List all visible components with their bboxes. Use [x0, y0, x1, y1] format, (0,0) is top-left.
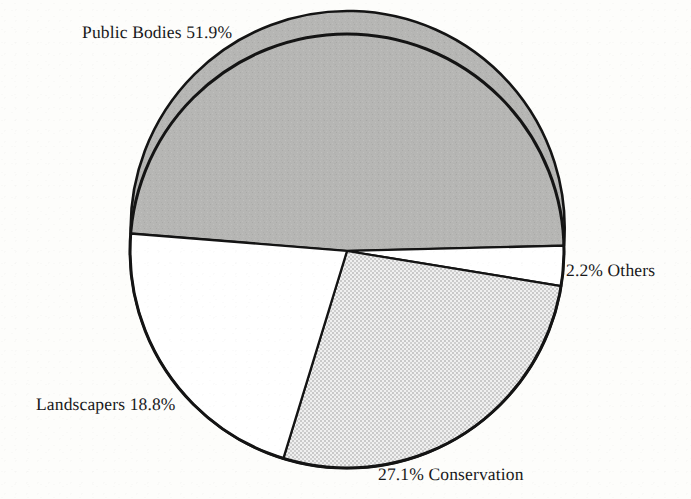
pie-label-landscapers: Landscapers 18.8% — [36, 396, 176, 414]
pie-label-others: 2.2% Others — [566, 262, 655, 280]
pie-chart-figure: Public Bodies 51.9% 2.2% Others 27.1% Co… — [0, 0, 691, 499]
pie-label-conservation: 27.1% Conservation — [378, 466, 524, 484]
pie-chart-svg — [0, 0, 691, 499]
pie-label-public-bodies: Public Bodies 51.9% — [82, 24, 232, 42]
pie-slice-public-bodies[interactable] — [131, 11, 565, 251]
